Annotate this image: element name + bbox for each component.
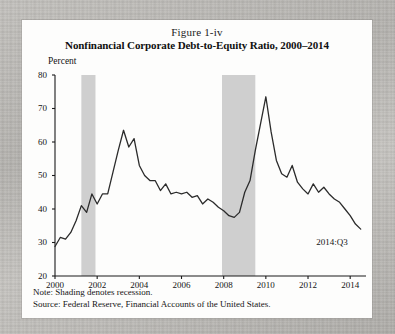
- x-axis-tick-label: 2008: [207, 281, 241, 290]
- y-axis-tick-label: 70: [25, 104, 47, 113]
- x-axis-tick-label: 2012: [291, 281, 325, 290]
- x-axis-tick-label: 2010: [249, 281, 283, 290]
- figure-panel: Figure 1-iv Nonfinancial Corporate Debt-…: [22, 20, 372, 318]
- recession-shading: [81, 75, 95, 276]
- endpoint-annotation: 2014:Q3: [316, 237, 348, 247]
- note-text: Note: Shading denotes recession.: [33, 287, 152, 297]
- x-axis-tick-label: 2006: [165, 281, 199, 290]
- data-series-line: [55, 97, 361, 247]
- y-axis-tick-label: 60: [25, 138, 47, 147]
- y-axis-tick-label: 80: [25, 71, 47, 80]
- y-axis-tick-label: 50: [25, 171, 47, 180]
- x-axis-tick-label: 2014: [333, 281, 367, 290]
- y-axis-tick-label: 20: [25, 272, 47, 281]
- y-axis-tick-label: 30: [25, 238, 47, 247]
- y-axis-tick-label: 40: [25, 205, 47, 214]
- plot-area: 2030405060708020002002200420062008201020…: [22, 20, 372, 318]
- source-text: Source: Federal Reserve, Financial Accou…: [33, 299, 270, 309]
- chart-canvas: [22, 20, 372, 318]
